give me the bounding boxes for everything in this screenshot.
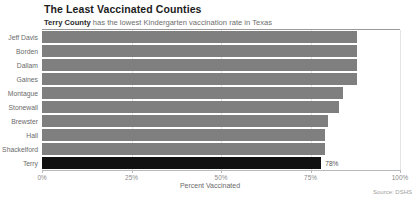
- bar-montague[interactable]: [42, 87, 343, 98]
- bar-row[interactable]: [42, 101, 400, 112]
- x-tick-label: 75%: [304, 174, 317, 181]
- plot-area: 78%: [42, 30, 400, 170]
- category-label-montague: Montague: [0, 90, 38, 97]
- bar-row[interactable]: 78%: [42, 157, 400, 168]
- bar-jeff-davis[interactable]: [42, 31, 357, 42]
- bar-brewster[interactable]: [42, 115, 328, 126]
- bar-value-label: 78%: [321, 159, 338, 166]
- x-tick: [132, 170, 133, 173]
- bar-row[interactable]: [42, 73, 400, 84]
- x-tick-label: 0%: [37, 174, 46, 181]
- chart-figure: The Least Vaccinated Counties Terry Coun…: [0, 0, 420, 204]
- x-axis-title: Percent Vaccinated: [0, 182, 420, 189]
- x-tick-label: 25%: [125, 174, 138, 181]
- bar-borden[interactable]: [42, 45, 357, 56]
- category-label-borden: Borden: [0, 48, 38, 55]
- bar-row[interactable]: [42, 115, 400, 126]
- chart-title: The Least Vaccinated Counties: [44, 3, 404, 16]
- category-label-brewster: Brewster: [0, 118, 38, 125]
- category-label-terry: Terry: [0, 160, 38, 167]
- category-label-stonewall: Stonewall: [0, 104, 38, 111]
- bar-row[interactable]: [42, 59, 400, 70]
- bar-row[interactable]: [42, 31, 400, 42]
- bar-shackelford[interactable]: [42, 143, 325, 154]
- bar-hall[interactable]: [42, 129, 325, 140]
- source-note: Source: DSHS: [373, 189, 412, 195]
- x-tick-label: 50%: [215, 174, 228, 181]
- category-label-hall: Hall: [0, 132, 38, 139]
- bar-dallam[interactable]: [42, 59, 357, 70]
- chart-header: The Least Vaccinated Counties Terry Coun…: [44, 3, 404, 28]
- gridline: [400, 30, 401, 170]
- bar-row[interactable]: [42, 87, 400, 98]
- x-tick-label: 100%: [392, 174, 408, 181]
- bar-row[interactable]: [42, 129, 400, 140]
- x-tick: [42, 170, 43, 173]
- x-tick: [400, 170, 401, 173]
- bar-row[interactable]: [42, 143, 400, 154]
- chart-subtitle: Terry County has the lowest Kindergarten…: [44, 18, 404, 28]
- bar-stonewall[interactable]: [42, 101, 339, 112]
- category-label-dallam: Dallam: [0, 62, 38, 69]
- bar-row[interactable]: [42, 45, 400, 56]
- category-label-shackelford: Shackelford: [0, 146, 38, 153]
- x-tick: [311, 170, 312, 173]
- bar-terry[interactable]: [42, 157, 321, 168]
- chart-subtitle-rest: has the lowest Kindergarten vaccination …: [91, 18, 272, 27]
- category-label-jeff-davis: Jeff Davis: [0, 34, 38, 41]
- chart-subtitle-highlight: Terry County: [44, 18, 91, 27]
- x-tick: [221, 170, 222, 173]
- category-label-gaines: Gaines: [0, 76, 38, 83]
- bar-gaines[interactable]: [42, 73, 357, 84]
